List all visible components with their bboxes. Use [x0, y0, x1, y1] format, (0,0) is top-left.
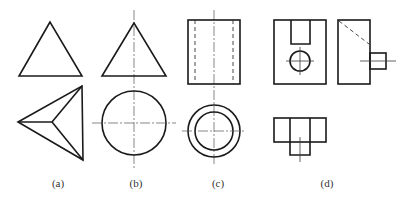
panel-b — [92, 10, 176, 168]
panel-a — [18, 22, 83, 160]
label-panel-d: (d) — [321, 177, 334, 189]
projection-diagram — [0, 0, 412, 200]
panel-d — [274, 20, 396, 162]
block-top-view — [274, 118, 326, 162]
block-side-view — [338, 20, 396, 84]
label-panel-b: (b) — [130, 177, 143, 189]
hidden-slot-edge — [339, 21, 369, 44]
panel-c — [182, 10, 246, 166]
pyramid-top-view — [18, 86, 83, 160]
pyramid-front-view — [19, 22, 82, 76]
label-panel-c: (c) — [212, 177, 224, 189]
label-panel-a: (a) — [52, 177, 64, 189]
block-front-view — [274, 20, 326, 84]
